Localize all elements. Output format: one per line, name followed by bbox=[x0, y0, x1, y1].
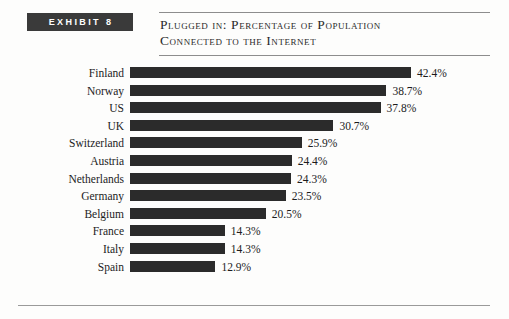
bar bbox=[130, 85, 386, 96]
category-label: UK bbox=[0, 119, 124, 133]
bar-track: 38.7% bbox=[130, 85, 509, 97]
category-label: Belgium bbox=[0, 207, 124, 221]
bar-value-label: 24.3% bbox=[297, 172, 327, 186]
chart-row: France14.3% bbox=[0, 224, 509, 242]
chart-row: US37.8% bbox=[0, 101, 509, 119]
category-label: US bbox=[0, 101, 124, 115]
bar bbox=[130, 261, 215, 272]
exhibit-badge: EXHIBIT 8 bbox=[27, 13, 133, 31]
chart-row: UK30.7% bbox=[0, 119, 509, 137]
chart-row: Italy14.3% bbox=[0, 242, 509, 260]
bar bbox=[130, 243, 225, 254]
bar-track: 37.8% bbox=[130, 102, 509, 114]
bar bbox=[130, 208, 266, 219]
bar bbox=[130, 225, 225, 236]
exhibit-header: EXHIBIT 8 Plugged in: Percentage of Popu… bbox=[0, 0, 509, 60]
exhibit-figure: EXHIBIT 8 Plugged in: Percentage of Popu… bbox=[0, 0, 509, 319]
chart-row: Finland42.4% bbox=[0, 66, 509, 84]
bar-value-label: 42.4% bbox=[417, 66, 447, 80]
bar-track: 24.4% bbox=[130, 155, 509, 167]
chart-row: Spain12.9% bbox=[0, 260, 509, 278]
bar-track: 42.4% bbox=[130, 67, 509, 79]
footer-rule bbox=[18, 305, 490, 306]
bar-value-label: 38.7% bbox=[392, 84, 422, 98]
bar bbox=[130, 137, 302, 148]
chart-row: Norway38.7% bbox=[0, 84, 509, 102]
bar-value-label: 14.3% bbox=[231, 224, 261, 238]
chart-row: Belgium20.5% bbox=[0, 207, 509, 225]
category-label: Finland bbox=[0, 66, 124, 80]
bar bbox=[130, 190, 286, 201]
bar-track: 14.3% bbox=[130, 225, 509, 237]
chart-row: Switzerland25.9% bbox=[0, 136, 509, 154]
bar-value-label: 12.9% bbox=[221, 260, 251, 274]
bar-track: 20.5% bbox=[130, 208, 509, 220]
bar bbox=[130, 67, 411, 78]
bar-value-label: 14.3% bbox=[231, 242, 261, 256]
bar-value-label: 20.5% bbox=[272, 207, 302, 221]
category-label: Netherlands bbox=[0, 172, 124, 186]
chart-row: Austria24.4% bbox=[0, 154, 509, 172]
bar-value-label: 23.5% bbox=[292, 189, 322, 203]
bar-value-label: 37.8% bbox=[387, 101, 417, 115]
title-rule-top bbox=[159, 12, 490, 13]
category-label: Switzerland bbox=[0, 136, 124, 150]
chart-row: Germany23.5% bbox=[0, 189, 509, 207]
bar-track: 23.5% bbox=[130, 190, 509, 202]
bar bbox=[130, 155, 292, 166]
bar-track: 14.3% bbox=[130, 243, 509, 255]
bar-value-label: 25.9% bbox=[308, 136, 338, 150]
bar-track: 12.9% bbox=[130, 261, 509, 273]
page-title: Plugged in: Percentage of Population Con… bbox=[160, 17, 490, 49]
category-label: Norway bbox=[0, 84, 124, 98]
title-rule-bottom bbox=[159, 55, 490, 56]
category-label: Germany bbox=[0, 189, 124, 203]
category-label: Austria bbox=[0, 154, 124, 168]
bar bbox=[130, 173, 291, 184]
bar-value-label: 24.4% bbox=[298, 154, 328, 168]
bar bbox=[130, 120, 333, 131]
bar bbox=[130, 102, 381, 113]
bar-chart-plot-area: Finland42.4%Norway38.7%US37.8%UK30.7%Swi… bbox=[0, 66, 509, 288]
bar-track: 30.7% bbox=[130, 120, 509, 132]
bar-value-label: 30.7% bbox=[339, 119, 369, 133]
category-label: France bbox=[0, 224, 124, 238]
category-label: Italy bbox=[0, 242, 124, 256]
category-label: Spain bbox=[0, 260, 124, 274]
chart-row: Netherlands24.3% bbox=[0, 172, 509, 190]
bar-track: 24.3% bbox=[130, 173, 509, 185]
bar-track: 25.9% bbox=[130, 137, 509, 149]
